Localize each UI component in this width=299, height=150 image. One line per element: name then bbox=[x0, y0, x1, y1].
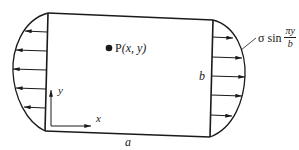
point-p-label: P(x, y) bbox=[115, 42, 146, 54]
load-formula-denominator: b bbox=[288, 38, 293, 49]
load-label-leader bbox=[241, 38, 256, 50]
left-load-envelope bbox=[13, 13, 48, 131]
y-axis-label: y bbox=[58, 85, 63, 96]
width-label-a: a bbox=[125, 136, 131, 148]
plate-outline bbox=[45, 13, 213, 137]
load-formula-numerator: πy bbox=[284, 26, 295, 38]
x-axis-label: x bbox=[96, 113, 101, 124]
right-arrow-4 bbox=[211, 95, 242, 96]
right-arrow-2 bbox=[212, 57, 242, 58]
point-p-args: (x, y) bbox=[122, 41, 147, 55]
left-arrow-1 bbox=[25, 31, 47, 32]
left-arrow-2 bbox=[16, 50, 47, 51]
plate-diagram bbox=[0, 0, 299, 150]
plate-top-edge bbox=[48, 13, 213, 20]
load-formula-fraction: πy b bbox=[284, 26, 295, 49]
right-arrow-3 bbox=[211, 76, 245, 77]
load-formula-prefix: σ sin bbox=[258, 32, 281, 44]
right-arrow-1 bbox=[212, 37, 233, 38]
load-formula-label: σ sin πy b bbox=[258, 26, 296, 49]
left-arrow-5 bbox=[24, 107, 45, 108]
right-arrow-5 bbox=[211, 115, 232, 116]
point-p-letter: P bbox=[115, 41, 122, 55]
left-arrow-4 bbox=[16, 88, 46, 89]
coordinate-axes bbox=[51, 90, 91, 126]
plate-right-edge bbox=[210, 20, 213, 137]
left-arrow-3 bbox=[13, 69, 46, 70]
point-p-marker bbox=[106, 45, 113, 52]
height-label-b: b bbox=[199, 70, 205, 82]
plate-left-edge bbox=[45, 13, 48, 131]
